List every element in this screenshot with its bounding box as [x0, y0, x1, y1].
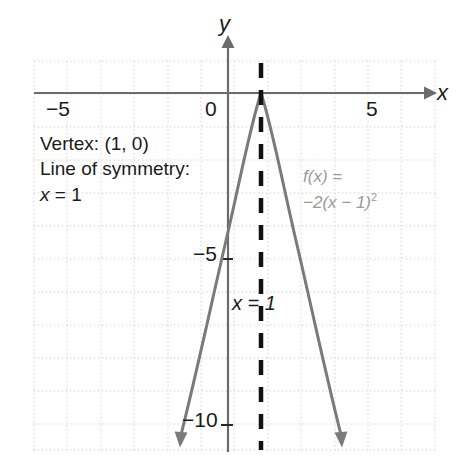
line-of-symmetry-caption-text: x = 1	[232, 292, 276, 314]
x-tick-label-5: 5	[366, 98, 378, 119]
function-equation: f(x) = −2(x − 1)2	[303, 166, 377, 213]
function-equation-line2: −2(x − 1)2	[303, 187, 377, 213]
x-tick-label-0: 0	[205, 98, 217, 119]
symmetry-value-rest: = 1	[50, 184, 82, 205]
symmetry-value-annotation: x = 1	[40, 182, 82, 207]
y-tick-label-neg10: −10	[182, 409, 218, 430]
function-equation-line1: f(x) =	[303, 166, 377, 187]
y-axis-label: y	[219, 11, 230, 37]
symmetry-value-variable: x	[40, 184, 50, 205]
graph-canvas	[0, 0, 472, 474]
function-equation-exponent: 2	[371, 191, 377, 203]
vertex-annotation: Vertex: (1, 0)	[40, 131, 149, 156]
symmetry-annotation: Line of symmetry:	[40, 156, 190, 181]
line-of-symmetry-caption: x = 1	[232, 292, 276, 315]
y-tick-label-neg5: −5	[193, 243, 217, 264]
function-equation-body: −2(x − 1)	[303, 193, 371, 212]
x-tick-label-neg5: −5	[46, 98, 70, 119]
parabola-right-arrow	[335, 432, 348, 448]
x-axis-label: x	[437, 80, 448, 106]
parabola-left-arrow	[175, 432, 188, 448]
graph-figure: y x −5 0 5 −5 −10 Vertex: (1, 0) Line of…	[0, 0, 472, 474]
